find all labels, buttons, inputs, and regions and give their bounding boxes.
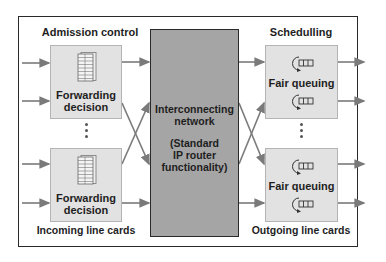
ellipsis-dots-left xyxy=(85,123,89,141)
round-robin-queue-icon xyxy=(290,158,316,176)
center-line-5: functionality) xyxy=(151,162,238,174)
center-line-3: (Standard xyxy=(151,138,238,150)
incoming-line-cards-label: Incoming line cards xyxy=(36,224,136,236)
scheduling-title: Schedulling xyxy=(251,26,351,38)
admission-control-title: Admission control xyxy=(40,26,140,38)
center-line-1: Interconnecting xyxy=(151,104,238,116)
interconnecting-network-box: Interconnecting network (Standard IP rou… xyxy=(150,29,239,237)
outgoing-line-cards-label: Outgoing line cards xyxy=(251,224,351,236)
center-line-4: IP router xyxy=(151,150,238,162)
fair-queuing-card-bottom: Fair queuing xyxy=(265,148,338,222)
table-stack-icon xyxy=(77,52,97,82)
decision-label: decision xyxy=(51,101,121,113)
round-robin-queue-icon xyxy=(290,93,316,111)
fair-queuing-card-top: Fair queuing xyxy=(265,45,338,119)
round-robin-queue-icon xyxy=(290,196,316,214)
table-stack-icon xyxy=(77,155,97,185)
center-line-2: network xyxy=(151,116,238,128)
forwarding-label: Forwarding xyxy=(51,192,121,204)
forwarding-card-bottom: Forwarding decision xyxy=(50,148,122,222)
forwarding-card-top: Forwarding decision xyxy=(50,45,122,119)
round-robin-queue-icon xyxy=(290,55,316,73)
fair-queuing-label: Fair queuing xyxy=(266,77,337,89)
forwarding-label: Forwarding xyxy=(51,89,121,101)
decision-label: decision xyxy=(51,204,121,216)
ellipsis-dots-right xyxy=(300,123,304,141)
fair-queuing-label: Fair queuing xyxy=(266,180,337,192)
